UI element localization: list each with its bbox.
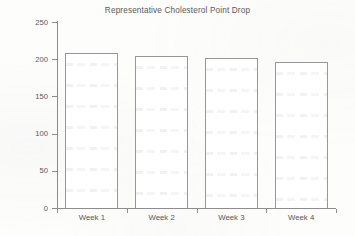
bar-scan-bleed: [206, 59, 257, 208]
bar-4: [275, 62, 328, 208]
y-tick-mark: [52, 96, 57, 97]
plot-area: 050100150200250 Week 1Week 2Week 3Week 4: [0, 0, 355, 236]
x-tick-label-1: Week 1: [62, 213, 122, 222]
y-tick-mark: [52, 22, 57, 23]
y-tick-label: 100: [12, 129, 48, 138]
y-axis-line: [57, 21, 58, 209]
x-tick-mark: [57, 209, 58, 213]
y-tick-label: 150: [12, 92, 48, 101]
bar-scan-bleed: [276, 63, 327, 208]
y-tick-label: 250: [12, 18, 48, 27]
bar-1: [65, 53, 118, 208]
figure-canvas: Representative Cholesterol Point Drop Ch…: [0, 0, 355, 236]
x-tick-label-3: Week 3: [201, 213, 261, 222]
bar-scan-bleed: [66, 54, 117, 208]
y-tick-mark: [52, 134, 57, 135]
y-tick-label: 0: [12, 204, 48, 213]
y-tick-mark: [52, 171, 57, 172]
bar-scan-bleed: [136, 57, 187, 208]
bar-3: [205, 58, 258, 208]
y-tick-label: 200: [12, 55, 48, 64]
x-tick-label-4: Week 4: [271, 213, 331, 222]
x-tick-label-2: Week 2: [132, 213, 192, 222]
y-tick-mark: [52, 59, 57, 60]
x-tick-mark: [197, 209, 198, 213]
x-tick-mark: [127, 209, 128, 213]
y-tick-label: 50: [12, 166, 48, 175]
x-tick-mark: [336, 209, 337, 213]
x-tick-mark: [266, 209, 267, 213]
bar-2: [135, 56, 188, 208]
